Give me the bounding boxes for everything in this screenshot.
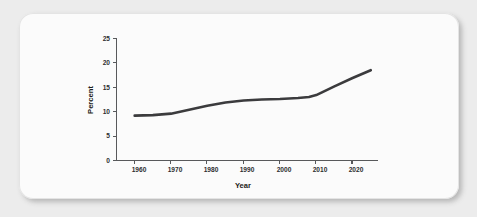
- x-axis-title: Year: [235, 181, 251, 190]
- x-tick-label-1960: 1960: [132, 166, 147, 173]
- line-chart: 0 5 10 15 20 25 1960 1970 198: [0, 0, 477, 217]
- y-tick-label-20: 20: [103, 59, 111, 66]
- y-axis-tick-labels: 0 5 10 15 20 25: [103, 35, 111, 164]
- y-axis-title: Percent: [86, 86, 95, 114]
- x-tick-label-1980: 1980: [204, 166, 219, 173]
- x-tick-label-2010: 2010: [313, 166, 328, 173]
- y-tick-label-0: 0: [106, 157, 110, 164]
- chart-svg: 0 5 10 15 20 25 1960 1970 198: [0, 0, 477, 217]
- screenshot-stage: 0 5 10 15 20 25 1960 1970 198: [0, 0, 477, 217]
- data-series-percent: [135, 70, 371, 115]
- x-tick-label-1970: 1970: [168, 166, 183, 173]
- y-tick-label-10: 10: [103, 108, 111, 115]
- x-tick-label-2020: 2020: [349, 166, 364, 173]
- x-axis-tick-labels: 1960 1970 1980 1990 2000 2010 2020: [132, 166, 364, 173]
- y-tick-label-25: 25: [103, 35, 111, 42]
- y-tick-label-5: 5: [106, 132, 110, 139]
- x-tick-label-2000: 2000: [277, 166, 292, 173]
- x-tick-label-1990: 1990: [240, 166, 255, 173]
- y-tick-label-15: 15: [103, 84, 111, 91]
